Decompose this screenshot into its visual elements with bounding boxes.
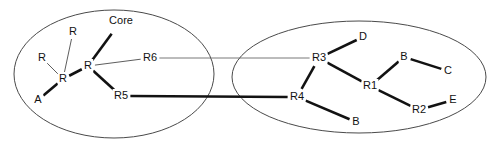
node-label-R_D: D: [359, 30, 367, 42]
node-label-L_R_center: R: [59, 72, 67, 84]
node-label-R_R2: R2: [412, 103, 426, 115]
cluster-outline-left-fragment: [14, 10, 214, 138]
node-label-R_R3: R3: [312, 51, 326, 63]
node-label-R_B_top: B: [400, 50, 407, 62]
node-label-L_R_top: R: [69, 25, 77, 37]
node-label-R_C: C: [444, 64, 452, 76]
node-label-L_R_main: R: [84, 59, 92, 71]
node-label-L_A: A: [34, 93, 42, 105]
node-label-R_R1: R1: [363, 79, 377, 91]
node-label-R_E: E: [449, 93, 456, 105]
node-label-L_R_left: R: [38, 51, 46, 63]
cluster-outlines-group: [14, 10, 486, 138]
diagram-canvas: RCoreRRRAR6R5R3DR1BCR2ER4B: [0, 0, 497, 146]
node-label-R_B_bottom: B: [352, 115, 359, 127]
diagram-svg: RCoreRRRAR6R5R3DR1BCR2ER4B: [0, 0, 497, 146]
node-label-L_R6: R6: [143, 51, 157, 63]
node-label-L_R5: R5: [114, 89, 128, 101]
node-label-R_R4: R4: [290, 90, 304, 102]
node-label-L_Core: Core: [109, 14, 133, 26]
bond-L_R5-to-R_R4: [130, 96, 287, 97]
